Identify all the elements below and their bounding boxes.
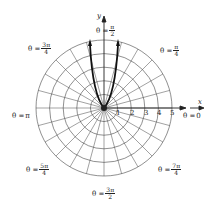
label-theta-3pi-4: θ =3π4 (28, 42, 51, 55)
label-theta-7pi-4: θ =7π4 (158, 163, 181, 176)
label-theta-pi-2: θ =π2 (96, 24, 115, 37)
x-axis-label: x (198, 98, 202, 106)
tick-3: 3 (144, 109, 148, 117)
tick-1: 1 (116, 109, 120, 117)
pole (101, 105, 107, 111)
tick-4: 4 (157, 109, 161, 117)
label-theta-3pi-2: θ =3π2 (92, 187, 115, 200)
y-axis-label: y (97, 12, 101, 20)
tick-5: 5 (170, 109, 174, 117)
label-theta-pi-4: θ =π4 (160, 44, 179, 57)
label-theta-5pi-4: θ =5π4 (26, 163, 49, 176)
label-theta-0: θ =0 (183, 112, 201, 120)
label-theta-pi: θ =π (12, 112, 30, 120)
tick-2: 2 (130, 109, 134, 117)
